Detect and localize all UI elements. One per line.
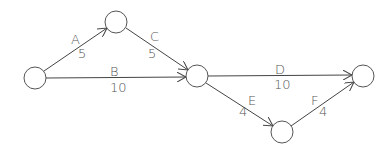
edge-b-label: B: [110, 64, 119, 79]
node-start: [24, 67, 46, 89]
edge-c-label: C: [150, 29, 159, 44]
node-end: [352, 65, 374, 87]
node-top: [105, 11, 127, 33]
edge-f-duration: 4: [319, 104, 327, 119]
activity-network-diagram: A 5 B 10 C 5 D 10 E 4 F 4: [0, 0, 392, 150]
edge-d-duration: 10: [274, 77, 291, 92]
edge-e-duration: 4: [239, 104, 247, 119]
edge-c-duration: 5: [148, 46, 156, 61]
edge-d-label: D: [275, 62, 285, 77]
node-bottom: [271, 121, 293, 143]
edge-b-duration: 10: [110, 80, 127, 95]
edge-e-label: E: [248, 93, 256, 108]
node-middle: [186, 65, 208, 87]
edge-f-label: F: [311, 93, 318, 108]
edge-a-duration: 5: [78, 46, 86, 61]
edge-a-label: A: [71, 32, 80, 47]
